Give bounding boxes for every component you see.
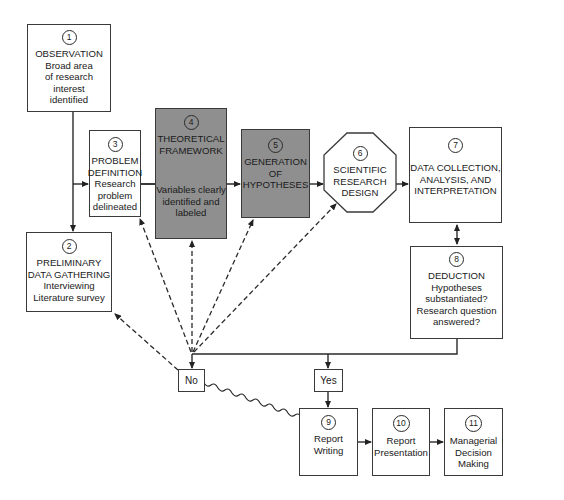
node-3-title: PROBLEM <box>92 155 139 167</box>
decision-no-label: No <box>178 369 205 392</box>
node-8-desc: Research question <box>417 305 497 317</box>
step-number-4: 4 <box>184 115 199 130</box>
node-4-desc: labeled <box>176 207 207 219</box>
node-4-title: FRAMEWORK <box>159 145 222 157</box>
node-1-desc: identified <box>50 94 88 106</box>
node-2-desc: Literature survey <box>33 292 104 304</box>
node-9-desc: Report <box>314 433 343 445</box>
step-number-5: 5 <box>268 138 283 153</box>
node-data-collection: 7 DATA COLLECTION, ANALYSIS, AND INTERPR… <box>409 127 502 223</box>
node-2-title: DATA GATHERING <box>28 269 111 281</box>
node-observation: 1 OBSERVATION Broad area of research int… <box>27 24 111 112</box>
edge-8-to-junction <box>192 339 457 354</box>
node-managerial-decision-making: 11 Managerial Decision Making <box>444 408 503 476</box>
node-3-desc: problem <box>98 190 133 202</box>
node-generation-of-hypotheses: 5 GENERATION OF HYPOTHESES <box>241 129 310 218</box>
node-4-title: THEORETICAL <box>157 133 224 145</box>
step-number-3: 3 <box>108 137 123 152</box>
node-3-desc: Research <box>94 178 135 190</box>
node-1-desc: Broad area <box>45 60 92 72</box>
node-10-desc: Presentation <box>374 447 428 459</box>
node-8-title: DEDUCTION <box>428 270 485 282</box>
decision-yes-label: Yes <box>314 369 343 392</box>
node-6-title: SCIENTIFIC <box>333 164 386 176</box>
node-5-title: HYPOTHESES <box>243 179 309 191</box>
node-11-desc: Managerial <box>450 435 497 447</box>
node-1-desc: of research <box>45 71 93 83</box>
node-2-desc: Interviewing <box>43 280 94 292</box>
node-scientific-research-design: 6 SCIENTIFIC RESEARCH DESIGN <box>324 133 396 212</box>
node-6-title: RESEARCH <box>333 176 386 188</box>
node-8-desc: substantiated? <box>425 293 487 305</box>
node-5-title: OF <box>269 168 282 180</box>
node-theoretical-framework: 4 THEORETICAL FRAMEWORK Variables clearl… <box>155 108 227 239</box>
node-7-title: DATA COLLECTION, <box>410 162 500 174</box>
node-10-desc: Report <box>387 435 416 447</box>
node-6-title: DESIGN <box>342 187 379 199</box>
node-4-desc: identified and <box>162 196 219 208</box>
edge-no-to-5 <box>193 220 253 352</box>
step-number-2: 2 <box>62 239 77 254</box>
node-7-title: INTERPRETATION <box>414 185 496 197</box>
step-number-10: 10 <box>393 415 410 432</box>
node-report-writing: 9 Report Writing <box>299 408 358 476</box>
node-8-desc: answered? <box>433 316 480 328</box>
step-number-1: 1 <box>62 30 77 45</box>
node-8-desc: Hypotheses <box>431 282 482 294</box>
node-1-desc: interest <box>53 83 84 95</box>
node-11-desc: Making <box>458 458 489 470</box>
node-5-title: GENERATION <box>244 156 307 168</box>
node-report-presentation: 10 Report Presentation <box>372 408 430 476</box>
node-11-desc: Decision <box>455 447 492 459</box>
node-1-title: OBSERVATION <box>35 48 103 60</box>
node-7-title: ANALYSIS, AND <box>420 174 491 186</box>
edge-no-to-2 <box>115 314 178 370</box>
node-3-desc: delineated <box>93 201 137 213</box>
step-number-6: 6 <box>353 146 368 161</box>
node-deduction: 8 DEDUCTION Hypotheses substantiated? Re… <box>410 246 503 339</box>
step-number-9: 9 <box>321 415 336 430</box>
node-3-title: DEFINITION <box>88 167 142 179</box>
step-number-8: 8 <box>449 252 464 267</box>
step-number-11: 11 <box>465 415 482 432</box>
node-preliminary-data-gathering: 2 PRELIMINARY DATA GATHERING Interviewin… <box>26 232 112 312</box>
node-4-desc: Variables clearly <box>156 184 226 196</box>
node-2-title: PRELIMINARY <box>37 257 102 269</box>
step-number-7: 7 <box>448 138 463 153</box>
node-9-desc: Writing <box>314 445 344 457</box>
node-problem-definition: 3 PROBLEM DEFINITION Research problem de… <box>89 130 141 217</box>
